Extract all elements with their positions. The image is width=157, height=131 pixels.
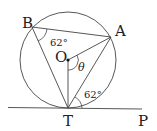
angle-label-b: 62° xyxy=(50,37,68,48)
angle-label-theta: θ xyxy=(78,61,85,74)
label-o: O xyxy=(55,48,67,66)
angle-arc-b xyxy=(38,29,47,41)
label-b: B xyxy=(22,14,33,32)
angle-label-t: 62° xyxy=(84,89,102,100)
label-a: A xyxy=(114,22,126,40)
label-p: P xyxy=(138,112,148,130)
segment-ba xyxy=(32,27,111,37)
geometry-diagram: B A O T P 62° θ 62° xyxy=(0,0,157,131)
label-t: T xyxy=(63,112,73,130)
